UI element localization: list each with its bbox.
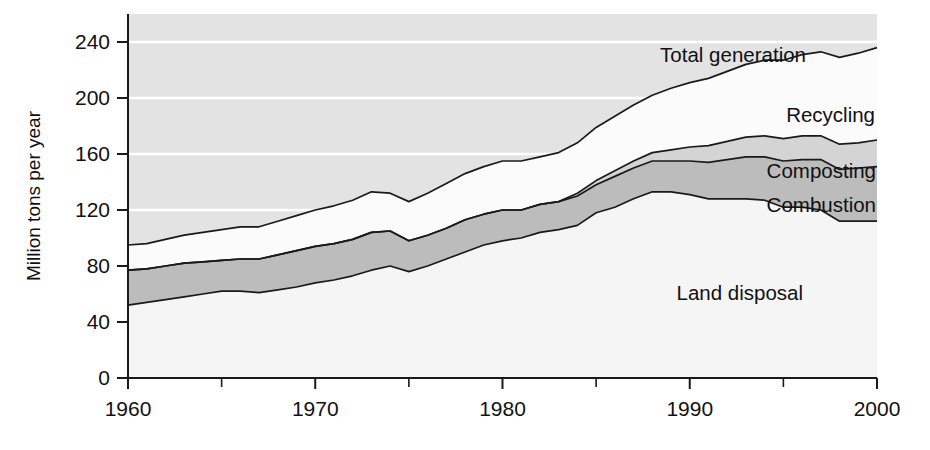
series-label-composting: Composting: [767, 159, 876, 182]
y-axis-tick-labels: 04080120160200240: [75, 30, 110, 389]
series-label-land-disposal: Land disposal: [676, 281, 803, 304]
y-tick-label-200: 200: [75, 86, 110, 109]
x-axis-ticks: [128, 378, 877, 389]
stacked-area-chart: 04080120160200240 19601970198019902000 M…: [0, 0, 930, 450]
y-tick-label-40: 40: [87, 310, 110, 333]
series-label-total-generation: Total generation: [660, 43, 806, 66]
x-tick-label-1980: 1980: [479, 397, 526, 420]
x-axis-tick-labels: 19601970198019902000: [105, 397, 901, 420]
x-tick-label-2000: 2000: [854, 397, 901, 420]
x-tick-label-1990: 1990: [666, 397, 713, 420]
x-tick-label-1970: 1970: [292, 397, 339, 420]
series-label-combustion: Combustion: [767, 193, 876, 216]
y-tick-label-160: 160: [75, 142, 110, 165]
y-tick-label-80: 80: [87, 254, 110, 277]
y-axis-ticks: [117, 42, 128, 378]
chart-figure: 04080120160200240 19601970198019902000 M…: [0, 0, 930, 450]
y-tick-label-240: 240: [75, 30, 110, 53]
y-axis-title: Million tons per year: [23, 110, 44, 281]
x-tick-label-1960: 1960: [105, 397, 152, 420]
y-tick-label-120: 120: [75, 198, 110, 221]
series-label-recycling: Recycling: [786, 103, 875, 126]
y-tick-label-0: 0: [98, 366, 110, 389]
